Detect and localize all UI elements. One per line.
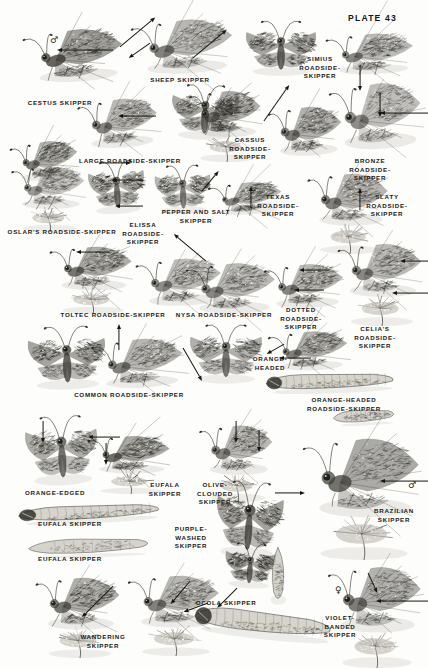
pointer-shaft [81, 251, 110, 252]
pointer-shaft [385, 480, 428, 481]
label-orange-headed-roadside-skipper: ORANGE-HEADED ROADSIDE-SKIPPER [302, 396, 386, 413]
pointer-head [128, 53, 134, 59]
label-oslars-roadside-skipper: OSLAR'S ROADSIDE-SKIPPER [8, 228, 117, 237]
pointer-head [380, 479, 385, 483]
plate-title: PLATE 43 [348, 13, 397, 23]
pointer-p-slaty [357, 188, 363, 210]
pointer-p-violet [376, 598, 428, 604]
pointer-p-eufala [103, 443, 109, 465]
specimen-brazilian-skipper [300, 430, 428, 560]
pointer-p-olive [233, 421, 239, 443]
specimen-common-roadside-side [95, 330, 188, 393]
label-cestus-skipper: CESTUS SKIPPER [28, 99, 92, 108]
label-olive-clouded-skipper: OLIVE- CLOUDED SKIPPER [197, 481, 233, 507]
specimen-dotted-roadside-skipper [267, 257, 347, 312]
plate-illustration: PLATE 43 CESTUS SKIPPERSHEEP SKIPPERSIMI… [0, 0, 428, 669]
label-pepper-and-salt-skipper: PEPPER AND SALT SKIPPER [162, 208, 231, 225]
pointer-head [76, 250, 81, 254]
label-simius-roadside-skipper: SIMIUS ROADSIDE- SKIPPER [299, 55, 340, 81]
label-orange-edged: ORANGE-EDGED [25, 489, 85, 498]
specimen-large-roadside-under [12, 133, 82, 185]
pointer-head [104, 460, 108, 465]
pointer-shaft [299, 289, 324, 290]
pointer-shaft [42, 421, 43, 438]
specimen-nysa-roadside-skipper [189, 255, 278, 317]
pointer-shaft [359, 65, 360, 86]
pointer-p-dotted [299, 267, 329, 273]
specimen-simius-roadside-under [329, 27, 417, 78]
pointer-head [300, 491, 305, 495]
pointer-shaft [258, 430, 259, 447]
pointer-shaft [250, 191, 251, 208]
pointer-shaft [381, 600, 428, 601]
label-sheep-skipper: SHEEP SKIPPER [150, 76, 210, 85]
pointer-p-elissa2 [115, 203, 143, 209]
pointer-p-common [116, 324, 122, 350]
pointer-p-texas [248, 186, 254, 208]
male-symbol: ♂ [50, 36, 58, 45]
pointer-head [115, 204, 120, 208]
pointer-p-purple [275, 490, 305, 496]
label-nysa-roadside-skipper: NYSA ROADSIDE-SKIPPER [176, 311, 272, 320]
pointer-shaft [405, 260, 428, 261]
label-wandering-skipper: WANDERING SKIPPER [80, 633, 125, 650]
pointer-shaft [120, 205, 143, 206]
label-eufala-skipper-larva: EUFALA SKIPPER [38, 520, 102, 529]
pointer-shaft [93, 436, 120, 437]
pointer-shaft [275, 492, 300, 493]
label-bronze-roadside-skipper: BRONZE ROADSIDE-SKIPPER [341, 157, 399, 183]
female-symbol: ♀ [335, 586, 342, 595]
label-eufala-skipper-upper: EUFALA SKIPPER [149, 481, 181, 498]
pointer-head [358, 86, 362, 91]
specimen-celias-roadside-skipper [336, 238, 428, 326]
pointer-head [183, 608, 189, 613]
label-elissa-roadside-skipper: ELISSA ROADSIDE- SKIPPER [122, 221, 163, 247]
pointer-head [294, 288, 299, 292]
pointer-p-toltec [76, 249, 110, 255]
pointer-shaft [105, 443, 106, 460]
pointer-head [284, 84, 290, 90]
pointer-head [57, 48, 62, 52]
pointer-head [380, 111, 385, 115]
pointer-shaft [284, 357, 311, 358]
pointer-shaft [118, 329, 119, 350]
label-texas-roadside-skipper: TEXAS ROADSIDE- SKIPPER [257, 193, 298, 219]
specimen-ocola-pupa [268, 546, 288, 606]
pointer-head [249, 186, 253, 191]
pointer-p-olive2 [256, 430, 262, 452]
label-cassus-roadside-skipper: CASSUS ROADSIDE- SKIPPER [229, 136, 270, 162]
pointer-head [41, 438, 45, 443]
pointer-p-orangeedged2 [88, 434, 120, 440]
pointer-p-celias2 [392, 290, 428, 296]
pointer-head [257, 447, 261, 452]
pointer-head [214, 170, 220, 176]
pointer-shaft [385, 112, 428, 113]
label-ocola-skipper: OCOLA SKIPPER [196, 599, 257, 608]
pointer-head [400, 259, 405, 263]
pointer-shaft [116, 179, 143, 180]
label-eufala-skipper-pupa: EUFALA SKIPPER [38, 555, 102, 564]
pointer-p-bronze2 [380, 110, 428, 116]
pointer-p-dotted2 [294, 287, 324, 293]
specimen-large-roadside-skipper [80, 89, 162, 152]
specimen-elissa-roadside-skipper [84, 162, 149, 218]
pointer-shaft [304, 269, 329, 270]
pointer-head [88, 435, 93, 439]
pointer-p-cestus [57, 47, 113, 53]
label-common-roadside-skipper: COMMON ROADSIDE-SKIPPER [74, 391, 184, 400]
label-celias-roadside-skipper: CELIA'S ROADSIDE-SKIPPER [349, 325, 402, 351]
label-dotted-roadside-skipper: DOTTED ROADSIDE- SKIPPER [280, 306, 321, 332]
label-toltec-roadside-skipper: TOLTEC ROADSIDE-SKIPPER [60, 311, 165, 320]
label-purple-washed-skipper: PURPLE- WASHED SKIPPER [175, 525, 207, 551]
pointer-head [111, 178, 116, 182]
label-orange-headed: ORANGE- HEADED [253, 355, 287, 372]
pointer-shaft [62, 49, 113, 50]
pointer-head [373, 587, 379, 593]
label-large-roadside-skipper: LARGE ROADSIDE-SKIPPER [79, 157, 181, 166]
pointer-head [392, 291, 397, 295]
pointer-p-simius [357, 65, 363, 91]
pointer-head [234, 438, 238, 443]
specimen-cestus-skipper [26, 19, 128, 88]
pointer-p-brazilian [380, 478, 428, 484]
pointer-head [358, 188, 362, 193]
